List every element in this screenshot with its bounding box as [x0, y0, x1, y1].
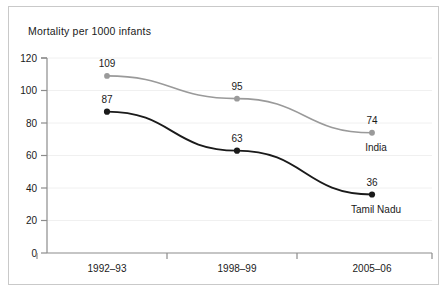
data-point-marker	[104, 73, 110, 79]
x-axis-ticks-group: 1992–931998–992005–06	[37, 253, 392, 274]
y-tick-label: 20	[26, 215, 38, 226]
data-point-marker	[234, 148, 240, 154]
data-point-label: 63	[231, 133, 243, 144]
y-tick-label: 80	[26, 118, 38, 129]
data-point-label: 74	[366, 115, 378, 126]
y-tick-label: 120	[20, 53, 37, 64]
series-label-india: India	[365, 142, 387, 153]
data-point-marker	[369, 130, 375, 136]
data-point-label: 109	[99, 58, 116, 69]
x-tick-label: 1992–93	[88, 263, 127, 274]
y-tick-label: 60	[26, 150, 38, 161]
data-point-label: 95	[231, 81, 243, 92]
x-tick-label: 2005–06	[353, 263, 392, 274]
data-point-label: 36	[366, 177, 378, 188]
series-label-tamil-nadu: Tamil Nadu	[351, 204, 401, 215]
series-line-tamil-nadu	[107, 112, 372, 195]
y-tick-label: 40	[26, 183, 38, 194]
data-labels-group: 1099574India876336Tamil Nadu	[99, 58, 401, 215]
chart-figure: Mortality per 1000 infants 0204060801001…	[0, 0, 447, 292]
data-point-label: 87	[101, 94, 113, 105]
data-point-marker	[369, 191, 375, 197]
data-point-marker	[104, 109, 110, 115]
y-axis-ticks-group: 020406080100120	[20, 53, 47, 259]
y-tick-label: 100	[20, 85, 37, 96]
x-tick-label: 1998–99	[218, 263, 257, 274]
plot-area: 020406080100120 1992–931998–992005–06 10…	[0, 0, 447, 292]
data-point-marker	[234, 96, 240, 102]
